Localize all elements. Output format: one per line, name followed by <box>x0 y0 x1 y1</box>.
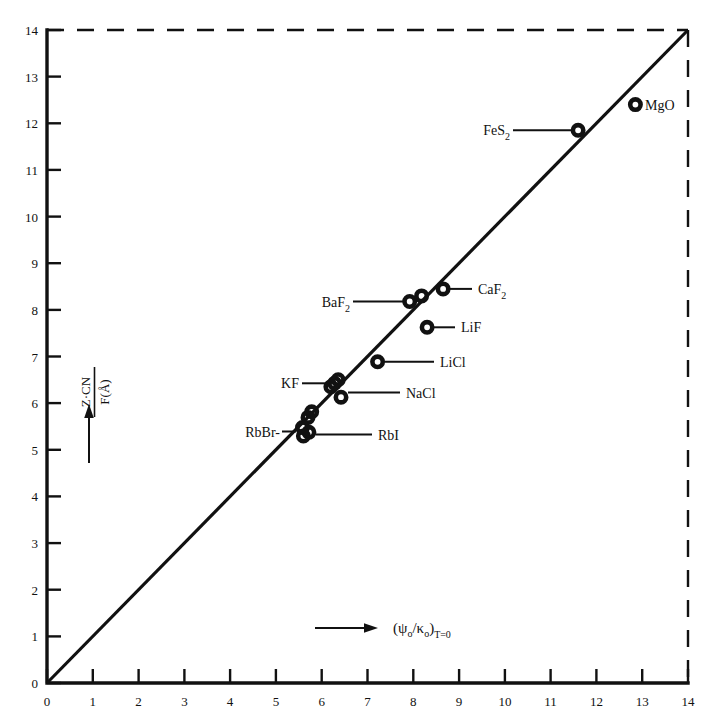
label-nacl: NaCl <box>406 386 436 401</box>
label-caf2: CaF2 <box>478 282 506 301</box>
label-lif: LiF <box>461 320 481 335</box>
label-caf2-sub: 2 <box>501 290 506 301</box>
label-mgo: MgO <box>645 98 675 113</box>
y-tick-10: 10 <box>25 210 38 225</box>
data-point-fes2[interactable] <box>573 125 583 135</box>
data-point-nacl[interactable] <box>336 392 346 402</box>
x-tick-7: 7 <box>364 694 371 709</box>
x-tick-3: 3 <box>181 694 188 709</box>
y-axis-label: Z·CN F(Å) <box>78 367 112 417</box>
label-baf2: BaF2 <box>322 295 350 314</box>
x-axis-label: (ψo/κo)T=0 <box>393 620 451 640</box>
y-tick-11: 11 <box>25 163 38 178</box>
x-tick-6: 6 <box>318 694 325 709</box>
y-tick-8: 8 <box>32 303 39 318</box>
data-point-cluster-baf2-b[interactable] <box>416 291 426 301</box>
y-tick-5: 5 <box>32 443 39 458</box>
y-tick-12: 12 <box>25 116 38 131</box>
x-tick-5: 5 <box>273 694 280 709</box>
y-axis-arrow-icon <box>84 404 94 463</box>
x-tick-12: 12 <box>590 694 603 709</box>
label-rbi: RbI <box>378 428 399 443</box>
x-axis-tick-labels: 0 1 2 3 4 5 6 7 8 9 10 11 12 13 14 <box>44 694 695 709</box>
y-tick-1: 1 <box>32 629 39 644</box>
data-point-labels: MgO FeS2 CaF2 BaF2 LiF LiCl KF NaCl RbBr… <box>245 98 674 443</box>
x-tick-9: 9 <box>456 694 463 709</box>
figure-container: 0 1 2 3 4 5 6 7 8 9 10 11 12 13 14 <box>0 0 705 724</box>
identity-reference-line <box>47 30 688 683</box>
x-tick-4: 4 <box>227 694 234 709</box>
y-tick-6: 6 <box>32 396 39 411</box>
scatter-plot: 0 1 2 3 4 5 6 7 8 9 10 11 12 13 14 <box>0 0 705 724</box>
x-tick-1: 1 <box>90 694 97 709</box>
x-tick-14: 14 <box>682 694 696 709</box>
y-tick-2: 2 <box>32 583 39 598</box>
label-fes2-sub: 2 <box>505 131 510 142</box>
y-axis-label-denominator: F(Å) <box>97 379 112 404</box>
label-kf: KF <box>281 376 299 391</box>
x-axis-label-text: (ψo/κo)T=0 <box>393 620 451 640</box>
data-markers <box>297 99 640 441</box>
data-point-baf2[interactable] <box>405 296 415 306</box>
label-baf2-base: BaF <box>322 295 346 310</box>
y-axis-label-numerator: Z·CN <box>78 376 93 407</box>
y-tick-3: 3 <box>32 536 39 551</box>
data-point-lif[interactable] <box>422 322 432 332</box>
label-fes2-base: FeS <box>483 123 505 138</box>
x-tick-13: 13 <box>636 694 649 709</box>
y-tick-9: 9 <box>32 256 39 271</box>
y-axis-ticks <box>47 30 61 683</box>
label-fes2: FeS2 <box>483 123 510 142</box>
label-licl: LiCl <box>440 355 466 370</box>
x-axis-arrow-icon <box>315 623 378 633</box>
y-tick-13: 13 <box>25 70 38 85</box>
x-label-subscript: T=0 <box>434 629 451 640</box>
data-point-mgo[interactable] <box>630 99 640 109</box>
y-tick-0: 0 <box>32 676 39 691</box>
y-axis-tick-labels: 0 1 2 3 4 5 6 7 8 9 10 11 12 13 14 <box>25 23 39 691</box>
x-axis-ticks <box>47 669 688 683</box>
x-tick-8: 8 <box>410 694 417 709</box>
data-point-licl[interactable] <box>372 357 382 367</box>
x-tick-2: 2 <box>135 694 142 709</box>
y-tick-7: 7 <box>32 350 39 365</box>
x-tick-0: 0 <box>44 694 51 709</box>
data-point-caf2[interactable] <box>438 284 448 294</box>
label-rbbr: RbBr- <box>245 425 280 440</box>
x-tick-10: 10 <box>498 694 511 709</box>
y-tick-4: 4 <box>32 489 39 504</box>
label-baf2-sub: 2 <box>345 303 350 314</box>
y-tick-14: 14 <box>25 23 39 38</box>
x-tick-11: 11 <box>544 694 557 709</box>
label-caf2-base: CaF <box>478 282 502 297</box>
